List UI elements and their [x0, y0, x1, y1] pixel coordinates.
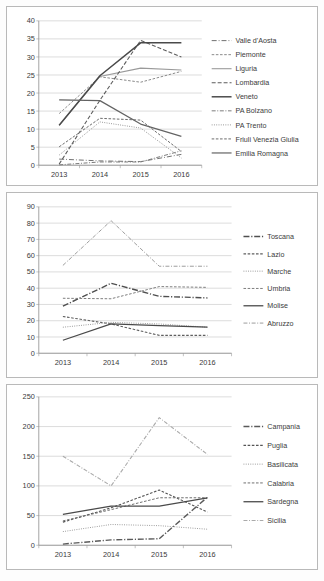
x-axis-tick-label: 2014: [103, 358, 119, 367]
y-axis-tick-label: 10: [27, 333, 35, 342]
series-line: [63, 283, 208, 306]
y-axis-tick-label: 25: [27, 71, 35, 80]
legend-entry-label: Abruzzo: [267, 320, 293, 328]
x-axis-tick-label: 2015: [132, 170, 148, 179]
legend-entry-label: Umbria: [267, 285, 290, 293]
legend-entry-label: Toscana: [267, 233, 294, 241]
legend-entry-label: Veneto: [236, 93, 258, 101]
x-axis-tick-label: 2013: [55, 358, 71, 367]
x-axis-tick-label: 2016: [173, 170, 189, 179]
series-line: [63, 497, 208, 544]
legend-entry-label: Campania: [267, 423, 300, 431]
series-line: [63, 498, 208, 515]
y-axis-tick-label: 35: [27, 34, 35, 43]
legend-entry-label: Molise: [267, 302, 288, 310]
x-axis-tick-label: 2013: [55, 550, 71, 559]
series-line: [59, 100, 181, 136]
legend-entry-label: Friuli Venezia Giulia: [236, 136, 299, 144]
legend-entry-label: Valle d'Aosta: [236, 37, 277, 45]
y-axis-tick-label: 20: [27, 316, 35, 325]
legend-entry-label: Piemonte: [236, 51, 266, 59]
legend-entry-label: Marche: [267, 268, 291, 276]
legend-entry-label: Liguria: [236, 65, 257, 73]
line-chart-north: 05101520253035402013201420152016Valle d'…: [7, 7, 317, 185]
y-axis-tick-label: 200: [23, 422, 35, 431]
line-chart-south: 0501001502002502013201420152016CampaniaP…: [7, 385, 317, 569]
series-line: [63, 418, 208, 486]
series-line: [59, 122, 181, 158]
y-axis-tick-label: 60: [27, 251, 35, 260]
chart-panel-south: 0501001502002502013201420152016CampaniaP…: [6, 384, 318, 570]
y-axis-tick-label: 30: [27, 300, 35, 309]
series-line: [63, 524, 208, 531]
y-axis-tick-label: 40: [27, 284, 35, 293]
y-axis-tick-label: 150: [23, 452, 35, 461]
x-axis-tick-label: 2016: [199, 550, 215, 559]
x-axis-tick-label: 2016: [199, 358, 215, 367]
series-line: [59, 118, 181, 151]
y-axis-tick-label: 30: [27, 53, 35, 62]
chart-panel-north: 05101520253035402013201420152016Valle d'…: [6, 6, 318, 186]
x-axis-tick-label: 2013: [51, 170, 67, 179]
line-chart-center: 01020304050607080902013201420152016Tosca…: [7, 193, 317, 377]
y-axis-tick-label: 80: [27, 219, 35, 228]
legend-entry-label: PA Bolzano: [236, 108, 272, 116]
figure-page: 05101520253035402013201420152016Valle d'…: [0, 0, 324, 581]
series-line: [59, 151, 181, 165]
y-axis-tick-label: 40: [27, 16, 35, 25]
series-line: [59, 154, 181, 161]
series-line: [63, 221, 208, 267]
legend-entry-label: Calabria: [267, 480, 294, 488]
y-axis-tick-label: 20: [27, 89, 35, 98]
y-axis-tick-label: 50: [27, 511, 35, 520]
x-axis-tick-label: 2014: [103, 550, 119, 559]
y-axis-tick-label: 0: [31, 541, 35, 550]
y-axis-tick-label: 0: [31, 349, 35, 358]
y-axis-tick-label: 50: [27, 268, 35, 277]
x-axis-tick-label: 2014: [92, 170, 108, 179]
y-axis-tick-label: 5: [31, 143, 35, 152]
x-axis-tick-label: 2015: [151, 550, 167, 559]
y-axis-tick-label: 100: [23, 481, 35, 490]
chart-panel-center: 01020304050607080902013201420152016Tosca…: [6, 192, 318, 378]
legend-entry-label: PA Trento: [236, 122, 267, 130]
legend-entry-label: Lazio: [267, 251, 284, 259]
legend-entry-label: Puglia: [267, 442, 287, 450]
y-axis-tick-label: 250: [23, 392, 35, 401]
legend-entry-label: Basilicata: [267, 461, 298, 469]
legend-entry-label: Emilia Romagna: [236, 150, 288, 158]
legend-entry-label: Sicilia: [267, 517, 286, 525]
legend-entry-label: Lombardia: [236, 79, 270, 87]
series-line: [59, 71, 181, 113]
y-axis-tick-label: 90: [27, 202, 35, 211]
y-axis-tick-label: 15: [27, 107, 35, 116]
series-line: [63, 324, 208, 340]
y-axis-tick-label: 70: [27, 235, 35, 244]
x-axis-tick-label: 2015: [151, 358, 167, 367]
y-axis-tick-label: 0: [31, 161, 35, 170]
legend-entry-label: Sardegna: [267, 498, 298, 506]
y-axis-tick-label: 10: [27, 125, 35, 134]
